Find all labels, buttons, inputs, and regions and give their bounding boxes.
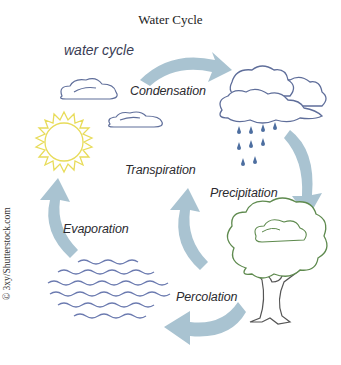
stage-label-condensation: Condensation [130, 84, 206, 98]
cloud-icon [61, 79, 117, 99]
stage-label-transpiration: Transpiration [125, 163, 196, 177]
copyright-credit: © 3xy/Shutterstock.com [2, 207, 12, 300]
water-cycle-diagram: Water Cycle [0, 0, 341, 365]
diagram-graphics [0, 0, 341, 365]
cloud-icon [109, 112, 163, 127]
cycle-arrow-icon [140, 52, 232, 86]
cycle-arrow-icon [164, 302, 246, 345]
sun-icon [36, 112, 92, 172]
rain-cloud-icon [220, 66, 326, 123]
water-waves-icon [48, 260, 170, 318]
stage-label-evaporation: Evaporation [63, 222, 129, 236]
cycle-arrow-icon [40, 178, 78, 258]
rain-drops-icon [237, 122, 277, 166]
tree-icon [227, 198, 326, 324]
diagram-subtitle: water cycle [64, 42, 134, 58]
stage-label-percolation: Percolation [176, 290, 237, 304]
stage-label-precipitation: Precipitation [210, 186, 278, 200]
cycle-arrow-icon [170, 188, 208, 270]
